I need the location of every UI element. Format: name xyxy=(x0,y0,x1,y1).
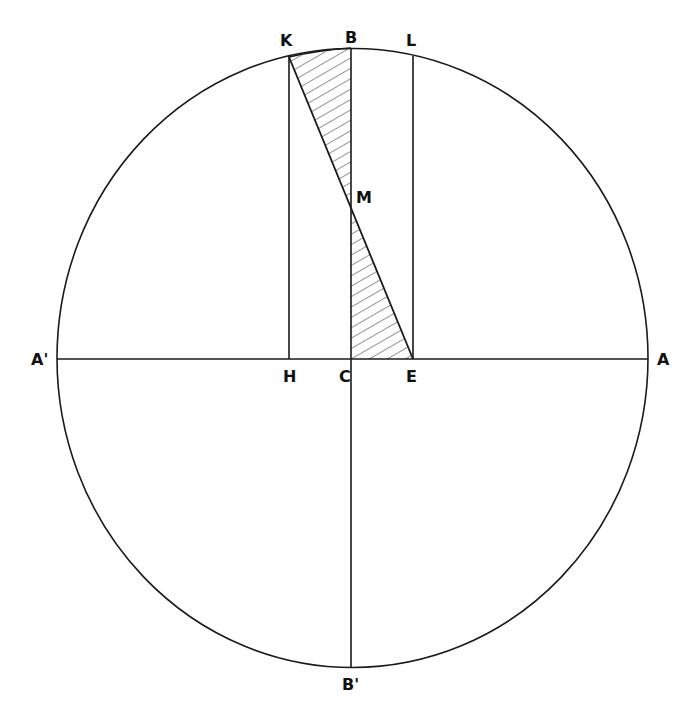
label-e: E xyxy=(406,369,417,385)
label-a: A xyxy=(657,352,669,368)
label-b-prime: B' xyxy=(342,677,359,693)
label-b: B xyxy=(345,30,357,46)
label-c: C xyxy=(339,369,351,385)
label-l: L xyxy=(406,33,416,49)
label-a-prime: A' xyxy=(31,352,48,368)
label-m: M xyxy=(356,190,372,206)
geometry-diagram xyxy=(0,0,692,714)
label-h: H xyxy=(283,369,296,385)
label-k: K xyxy=(280,33,292,49)
